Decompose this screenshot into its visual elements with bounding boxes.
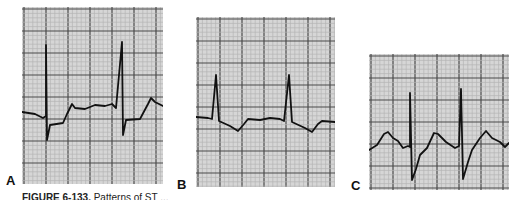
caption-text: Patterns of ST ... [94, 192, 169, 200]
ecg-strip-c [369, 54, 509, 190]
ecg-strip-a [22, 7, 163, 184]
panel-a-label: A [6, 174, 15, 187]
ecg-strip-b [196, 17, 335, 187]
panel-b-label: B [177, 178, 186, 191]
caption-prefix: FIGURE 6-133. [22, 192, 91, 200]
figure-caption: FIGURE 6-133. Patterns of ST ... [22, 192, 169, 200]
panel-c-label: C [351, 179, 360, 192]
